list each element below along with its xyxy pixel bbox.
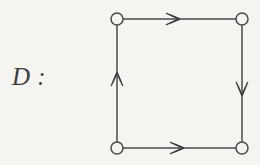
node-bottom-left[interactable] (111, 142, 123, 154)
edge-bottom-left-to-bottom-right (123, 142, 236, 153)
edge-top-left-to-top-right (123, 13, 236, 24)
node-bottom-right[interactable] (236, 142, 248, 154)
figure-container: D : (0, 0, 260, 165)
edge-bottom-left-to-top-left (111, 25, 122, 142)
node-top-right[interactable] (236, 13, 248, 25)
edge-top-right-to-bottom-right (236, 25, 247, 142)
node-top-left[interactable] (111, 13, 123, 25)
commutative-square-diagram (0, 0, 260, 165)
